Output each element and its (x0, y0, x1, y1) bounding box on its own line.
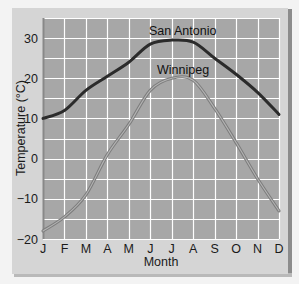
x-tick-label: M (81, 242, 91, 256)
y-axis-title: Temperature (°C) (14, 80, 28, 176)
line-chart: 3020100−10−20 JFMAMJJASOND San Antonio W… (0, 0, 299, 284)
x-tick-label: J (147, 242, 153, 256)
x-tick-label: N (253, 242, 262, 256)
y-tick-label: 30 (24, 32, 38, 46)
x-tick-label: J (169, 242, 175, 256)
series-label-san-antonio: San Antonio (149, 24, 216, 38)
x-tick-label: D (274, 242, 283, 256)
x-tick-label: A (103, 242, 112, 256)
x-tick-label: F (61, 242, 69, 256)
x-tick-label: O (231, 242, 241, 256)
y-tick-label: 0 (31, 152, 38, 166)
x-tick-label: M (124, 242, 134, 256)
x-tick-labels: JFMAMJJASOND (40, 242, 284, 256)
x-tick-label: S (210, 242, 218, 256)
y-tick-label: −10 (17, 192, 38, 206)
x-tick-label: A (189, 242, 198, 256)
series-label-winnipeg: Winnipeg (157, 63, 209, 77)
x-axis-title: Month (144, 255, 179, 269)
y-tick-label: −20 (17, 233, 38, 247)
x-tick-label: J (40, 242, 46, 256)
